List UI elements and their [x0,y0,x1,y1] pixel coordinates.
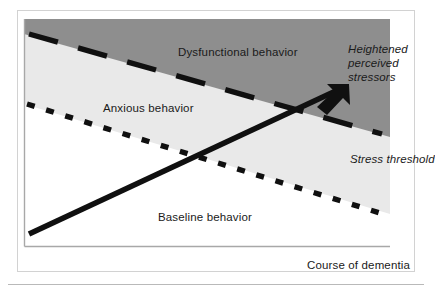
label-dysfunctional-behavior: Dysfunctional behavior [178,46,298,60]
label-stress-threshold: Stress threshold [350,153,435,167]
x-axis-label: Course of dementia [307,259,410,273]
label-baseline-behavior: Baseline behavior [158,211,252,225]
label-heightened-perceived-stressors: Heightened perceived stressors [348,42,422,84]
figure-panel: Dysfunctional behavior Anxious behavior … [17,10,415,272]
plot-area: Dysfunctional behavior Anxious behavior … [18,11,416,273]
label-anxious-behavior: Anxious behavior [103,102,194,116]
figure-footer-rule [8,284,424,285]
